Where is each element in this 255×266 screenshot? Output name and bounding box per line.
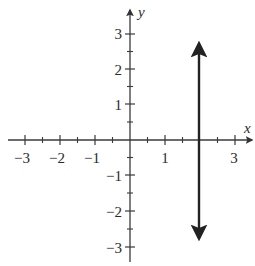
coordinate-plane: −3 −2 −1 1 3 3 2 1 −1 −2 −3 y x <box>0 0 255 266</box>
x-tick-labels: −3 −2 −1 1 3 <box>14 150 238 166</box>
x-axis-label: x <box>243 120 251 136</box>
x-tick-label: 3 <box>230 150 238 166</box>
y-tick-label: −2 <box>106 204 122 220</box>
y-tick-label: 2 <box>115 62 123 78</box>
x-tick-label: −1 <box>84 150 100 166</box>
y-tick-label: −1 <box>106 168 122 184</box>
y-tick-labels: 3 2 1 −1 −2 −3 <box>106 26 122 256</box>
y-tick-label: 1 <box>115 97 123 113</box>
x-tick-label: 1 <box>161 150 169 166</box>
y-tick-label: 3 <box>115 26 123 42</box>
x-tick-label: −3 <box>14 150 30 166</box>
y-tick-label: −3 <box>106 240 122 256</box>
x-tick-label: −2 <box>49 150 65 166</box>
y-axis-label: y <box>136 4 145 20</box>
